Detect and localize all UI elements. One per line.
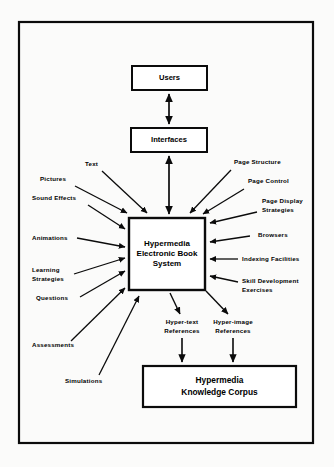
diagram-root: Users Interfaces Hypermedia Electronic B… [0,0,334,467]
core-label-line3: System [153,259,181,268]
left-input-arrow-1 [75,186,127,213]
left-input-label-7: Assessments [32,341,74,348]
node-knowledge-corpus[interactable]: Hypermedia Knowledge Corpus [143,366,296,407]
left-input-label-2: Sound Effects [32,194,77,201]
left-input-label-8: Simulations [65,377,103,384]
left-input-labels: TextPicturesSound EffectsAnimationsLearn… [32,160,103,384]
reference-label-1-line2: References [215,327,251,334]
right-input-label-7: Exercises [242,286,273,293]
node-users[interactable]: Users [132,66,207,90]
reference-label-1-line1: Hyper-image [213,318,253,325]
core-label-line1: Hypermedia [144,239,190,248]
reference-arrow-0 [170,293,180,314]
right-input-arrow-2 [210,212,257,223]
corpus-label-line2: Knowledge Corpus [181,387,258,397]
hypermedia-system-diagram: Users Interfaces Hypermedia Electronic B… [0,0,334,467]
left-input-arrow-6 [80,271,125,297]
left-input-label-0: Text [85,160,98,167]
node-core-system[interactable]: Hypermedia Electronic Book System [129,218,205,290]
right-input-label-4: Browsers [258,231,288,238]
right-input-label-5: Indexing Facilities [242,255,300,262]
left-input-arrow-3 [77,238,125,247]
left-input-label-5: Strategies [32,275,64,282]
left-input-arrow-4 [74,258,125,274]
users-label: Users [159,73,180,82]
reference-labels: Hyper-textReferencesHyper-imageReference… [164,318,253,334]
core-label-line2: Electronic Book [137,249,198,258]
right-input-label-0: Page Structure [234,158,281,165]
right-input-arrow-0 [190,170,231,213]
left-input-label-1: Pictures [40,175,66,182]
reference-arrow-1 [206,291,228,314]
corpus-label-line1: Hypermedia [196,375,244,385]
right-input-label-6: Skill Development [242,277,299,284]
right-input-arrow-4 [210,236,250,242]
left-input-label-6: Questions [36,294,68,301]
right-input-label-2: Page Display [262,197,303,204]
right-input-label-3: Strategies [262,206,294,213]
right-input-label-1: Page Control [248,177,289,184]
left-input-arrow-0 [102,171,147,213]
interfaces-label: Interfaces [151,135,187,144]
left-input-label-3: Animations [32,234,68,241]
node-interfaces[interactable]: Interfaces [131,128,207,152]
reference-label-0-line1: Hyper-text [166,318,199,325]
left-input-label-4: Learning [32,266,60,273]
right-input-arrow-6 [210,276,238,282]
reference-label-0-line2: References [164,327,200,334]
left-input-arrow-7 [71,288,125,341]
right-input-labels: Page StructurePage ControlPage DisplaySt… [234,158,303,293]
